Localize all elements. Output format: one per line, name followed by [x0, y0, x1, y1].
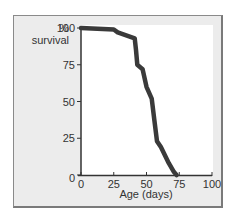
- y-tick-label: 0: [69, 172, 75, 184]
- y-tick-label: 50: [63, 96, 75, 108]
- x-axis-title: Age (days): [119, 188, 172, 200]
- x-tick-label: 25: [108, 178, 120, 190]
- y-tick-label: 100: [57, 22, 75, 34]
- x-tick-label: 100: [203, 178, 221, 190]
- x-tick-label: 0: [78, 178, 84, 190]
- survival-curve: [81, 28, 177, 175]
- x-tick-label: 75: [173, 178, 185, 190]
- y-tick-label: 75: [63, 59, 75, 71]
- y-axis: 0255075100: [57, 22, 81, 184]
- y-tick-label: 25: [63, 132, 75, 144]
- survival-chart: 0255075100 0255075100 Age (days): [0, 0, 237, 222]
